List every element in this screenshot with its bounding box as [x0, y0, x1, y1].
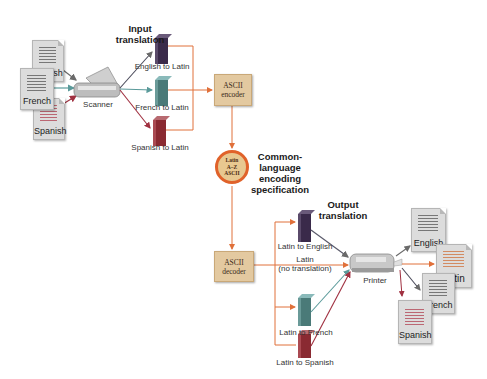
- book-spanish-to-latin: [153, 116, 170, 146]
- caption-line: language: [251, 162, 309, 173]
- doc-label: Spanish: [34, 126, 64, 136]
- page-fold: [440, 208, 446, 214]
- caption-line: encoding: [251, 173, 309, 184]
- passthrough-line: Latin: [278, 255, 331, 264]
- label-passthrough-latin: Latin (no translation): [278, 255, 331, 273]
- label-french-to-latin: French to Latin: [135, 103, 188, 112]
- scanner-label: Scanner: [83, 100, 113, 109]
- input-translation-heading: Input translation: [116, 23, 165, 45]
- label-latin-to-spanish: Latin to Spanish: [276, 358, 333, 367]
- output-translation-heading: Output translation: [319, 199, 368, 221]
- output-doc-spanish: Spanish: [398, 300, 432, 344]
- page-fold: [58, 40, 64, 46]
- ascii-encoder-box: ASCII encoder: [214, 74, 252, 106]
- encoder-line: ASCII: [221, 81, 245, 90]
- book-french-to-latin: [155, 76, 172, 106]
- circle-line: ASCII: [224, 170, 239, 177]
- page-fold: [59, 98, 65, 104]
- book-latin-to-english: [298, 210, 315, 242]
- heading-line: translation: [319, 210, 368, 221]
- heading-line: translation: [116, 34, 165, 45]
- decoder-line: ASCII: [222, 258, 246, 267]
- ascii-decoder-box: ASCII decoder: [214, 251, 254, 282]
- text-lines: [405, 309, 424, 327]
- doc-label: French: [21, 96, 53, 106]
- common-language-spec-caption: Common- language encoding specification: [251, 151, 309, 195]
- decoder-line: decoder: [222, 267, 246, 276]
- label-latin-to-english: Latin to English: [278, 242, 333, 251]
- heading-line: Input: [116, 23, 165, 34]
- printer-label: Printer: [363, 276, 387, 285]
- page-fold: [466, 244, 472, 250]
- label-spanish-to-latin: Spanish to Latin: [131, 143, 188, 152]
- input-doc-french: French: [20, 68, 54, 110]
- scanner-icon: [74, 67, 120, 97]
- text-lines: [429, 280, 447, 298]
- latin-ascii-spec-circle: Latin A–Z ASCII: [215, 150, 249, 184]
- printer-icon: [350, 254, 402, 272]
- label-english-to-latin: English to Latin: [135, 62, 190, 71]
- passthrough-line: (no translation): [278, 264, 331, 273]
- label-latin-to-french: Latin to French: [279, 328, 332, 337]
- encoder-line: encoder: [221, 90, 245, 99]
- text-lines: [27, 75, 46, 93]
- dictionaries-to-encoder: [166, 46, 212, 130]
- text-lines: [418, 215, 438, 233]
- doc-label: Spanish: [399, 330, 431, 340]
- circle-line: Latin: [224, 157, 239, 164]
- text-lines: [39, 47, 56, 65]
- heading-line: Output: [319, 199, 368, 210]
- text-lines: [443, 251, 464, 269]
- caption-line: specification: [251, 184, 309, 195]
- caption-line: Common-: [251, 151, 309, 162]
